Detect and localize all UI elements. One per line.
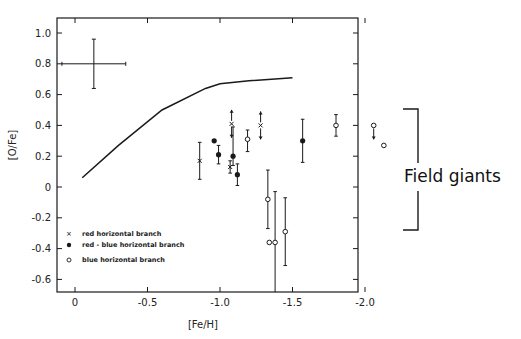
legend-item-blue-hb: blue horizontal branch: [67, 256, 165, 264]
open-circle-marker: [382, 143, 387, 148]
field-giants-bracket: Field giants: [403, 109, 501, 230]
y-tick-label: 0: [45, 182, 51, 193]
plot-frame: [57, 18, 358, 292]
field-giants-label: Field giants: [404, 166, 501, 186]
open-circle-marker: [267, 240, 272, 245]
y-tick-label: -0.2: [31, 212, 51, 223]
open-circle-marker: [245, 137, 250, 142]
open-circle-marker: [371, 123, 376, 128]
x-axis-title: [Fe/H]: [188, 319, 218, 330]
y-axis-title: [O/Fe]: [7, 130, 18, 160]
legend: × red horizontal branch red - blue horiz…: [66, 230, 185, 264]
y-tick-label: 1.0: [35, 28, 51, 39]
x-tick-label: -1.5: [283, 297, 303, 308]
y-tick-label: 0.8: [35, 58, 51, 69]
legend-label: blue horizontal branch: [82, 256, 165, 264]
x-tick-label: -2.0: [355, 297, 375, 308]
y-tick-label: 0.4: [35, 120, 51, 131]
filled-circle-marker: [216, 152, 221, 157]
y-axis-ticks: 1.00.80.60.40.20-0.2-0.4-0.6: [31, 28, 358, 285]
typical-error-cross: [62, 39, 126, 88]
x-marker-icon: ×: [66, 230, 72, 238]
y-tick-label: -0.4: [31, 243, 51, 254]
y-tick-label: -0.6: [31, 274, 51, 285]
open-circle-marker: [334, 123, 339, 128]
x-tick-label: 0: [72, 297, 78, 308]
y-tick-label: 0.6: [35, 89, 51, 100]
legend-item-red-blue-hb: red - blue horizontal branch: [67, 241, 185, 249]
chart: 1.00.80.60.40.20-0.2-0.4-0.6 0-0.5-1.0-1…: [0, 0, 521, 339]
legend-label: red - blue horizontal branch: [82, 241, 185, 249]
field-giants-curve: [82, 78, 292, 178]
open-circle-marker: [266, 197, 271, 202]
filled-circle-marker: [230, 154, 235, 159]
x-tick-label: -1.0: [210, 297, 230, 308]
filled-circle-marker: [212, 138, 217, 143]
legend-item-red-hb: × red horizontal branch: [66, 230, 162, 238]
x-axis-ticks: 0-0.5-1.0-1.5-2.0: [72, 18, 375, 308]
open-circle-marker: [273, 240, 278, 245]
filled-circle-marker: [300, 138, 305, 143]
x-tick-label: -0.5: [138, 297, 158, 308]
open-circle-icon: [67, 258, 71, 262]
filled-circle-icon: [67, 243, 71, 247]
legend-label: red horizontal branch: [82, 230, 162, 238]
open-circle-marker: [283, 229, 288, 234]
y-tick-label: 0.2: [35, 151, 51, 162]
filled-circle-marker: [235, 172, 240, 177]
